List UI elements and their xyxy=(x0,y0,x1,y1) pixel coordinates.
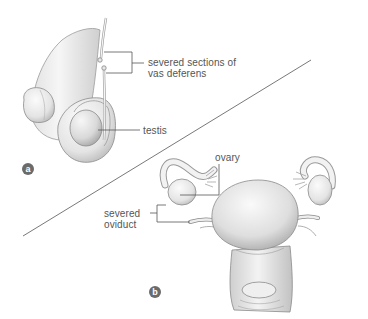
label-vas-line1: severed sections of xyxy=(148,57,236,68)
severed-end-lower xyxy=(102,66,106,70)
vas-deferens-leader xyxy=(104,52,144,73)
label-ovary: ovary xyxy=(215,152,240,163)
diagram-illustration xyxy=(0,0,368,319)
cervix xyxy=(230,246,292,312)
label-testis: testis xyxy=(143,125,167,136)
left-ovary xyxy=(168,179,196,205)
male-anatomy-illustration xyxy=(23,18,115,162)
oviduct-leader xyxy=(150,205,190,222)
female-anatomy-illustration xyxy=(163,160,332,312)
right-ovary xyxy=(308,175,332,205)
label-vas-line2: vas deferens xyxy=(148,68,236,79)
panel-b-badge: b xyxy=(149,286,161,298)
cervical-opening xyxy=(242,282,276,298)
label-oviduct-line2: oviduct xyxy=(104,219,140,230)
uterus-body xyxy=(212,180,298,250)
vasectomy-tubal-ligation-diagram: severed sections of vas deferens testis … xyxy=(0,0,368,319)
panel-a-badge: a xyxy=(22,163,34,175)
label-severed-vas-deferens: severed sections of vas deferens xyxy=(148,57,236,79)
testis-organ xyxy=(70,110,102,146)
severed-end-upper xyxy=(98,58,102,62)
label-severed-oviduct: severed oviduct xyxy=(104,208,140,230)
label-oviduct-line1: severed xyxy=(104,208,140,219)
